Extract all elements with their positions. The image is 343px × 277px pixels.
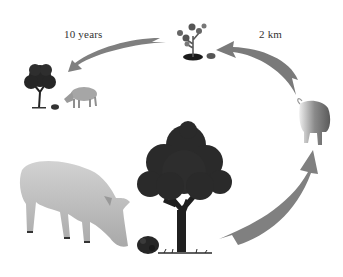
seedling-icon <box>177 24 207 61</box>
diagram-canvas: 10 years 2 km <box>0 0 343 277</box>
arrow-to-dispersal <box>219 150 318 245</box>
distance-label: 2 km <box>259 28 282 40</box>
large-tree-icon <box>137 121 232 253</box>
small-pig-icon <box>64 87 97 108</box>
arrow-to-germination <box>216 41 298 95</box>
pig-walking-icon <box>298 99 330 145</box>
truffle-icon <box>51 104 59 110</box>
large-pig-icon <box>20 161 130 247</box>
time-label: 10 years <box>64 28 103 40</box>
diagram-graphic <box>0 0 343 277</box>
arrow-to-new-host <box>68 38 166 72</box>
truffle-icon <box>207 53 216 59</box>
small-tree-icon <box>24 64 56 109</box>
truffle-icon <box>137 236 159 254</box>
